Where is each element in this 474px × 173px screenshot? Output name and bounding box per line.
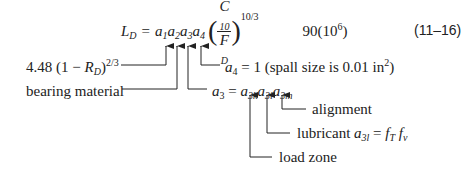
- leader-a2: [122, 46, 177, 89]
- leader-lines: [0, 0, 474, 173]
- leader-a4: [201, 46, 220, 65]
- leader-lubricant: [267, 95, 290, 133]
- leader-load-zone: [250, 95, 272, 157]
- leader-a3: [188, 46, 207, 89]
- leader-a1: [121, 46, 166, 65]
- leader-alignment: [282, 95, 306, 109]
